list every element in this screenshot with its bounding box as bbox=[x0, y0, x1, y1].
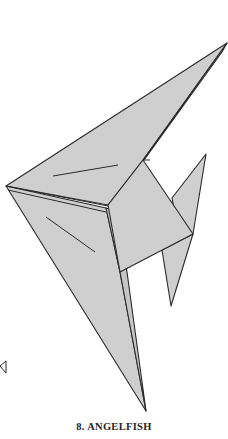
arrow-marker-icon bbox=[0, 361, 6, 373]
angelfish-diagram bbox=[0, 0, 228, 439]
figure-caption: 8. ANGELFISH bbox=[0, 421, 228, 432]
